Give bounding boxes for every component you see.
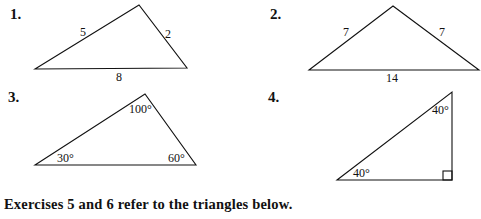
- ex2-base: 14: [386, 71, 398, 86]
- ex4-angle-top: 40°: [432, 103, 449, 118]
- exercise-2-number: 2.: [270, 6, 281, 23]
- exercise-3-number: 3.: [8, 89, 19, 106]
- ex1-side-right: 2: [165, 27, 171, 42]
- triangles-figure: [0, 0, 481, 219]
- ex3-angle-top: 100°: [129, 102, 152, 117]
- ex1-side-left: 5: [80, 25, 86, 40]
- ex1-base: 8: [116, 70, 122, 85]
- exercise-4-number: 4.: [268, 89, 279, 106]
- triangle-2: [309, 6, 479, 70]
- exercises-caption: Exercises 5 and 6 refer to the triangles…: [4, 196, 293, 213]
- ex4-angle-left: 40°: [353, 166, 370, 181]
- ex2-side-left: 7: [343, 25, 349, 40]
- exercise-1-number: 1.: [10, 6, 21, 23]
- ex3-angle-right: 60°: [168, 151, 185, 166]
- ex3-angle-left: 30°: [57, 151, 74, 166]
- right-angle-marker: [443, 171, 452, 180]
- ex2-side-right: 7: [439, 25, 445, 40]
